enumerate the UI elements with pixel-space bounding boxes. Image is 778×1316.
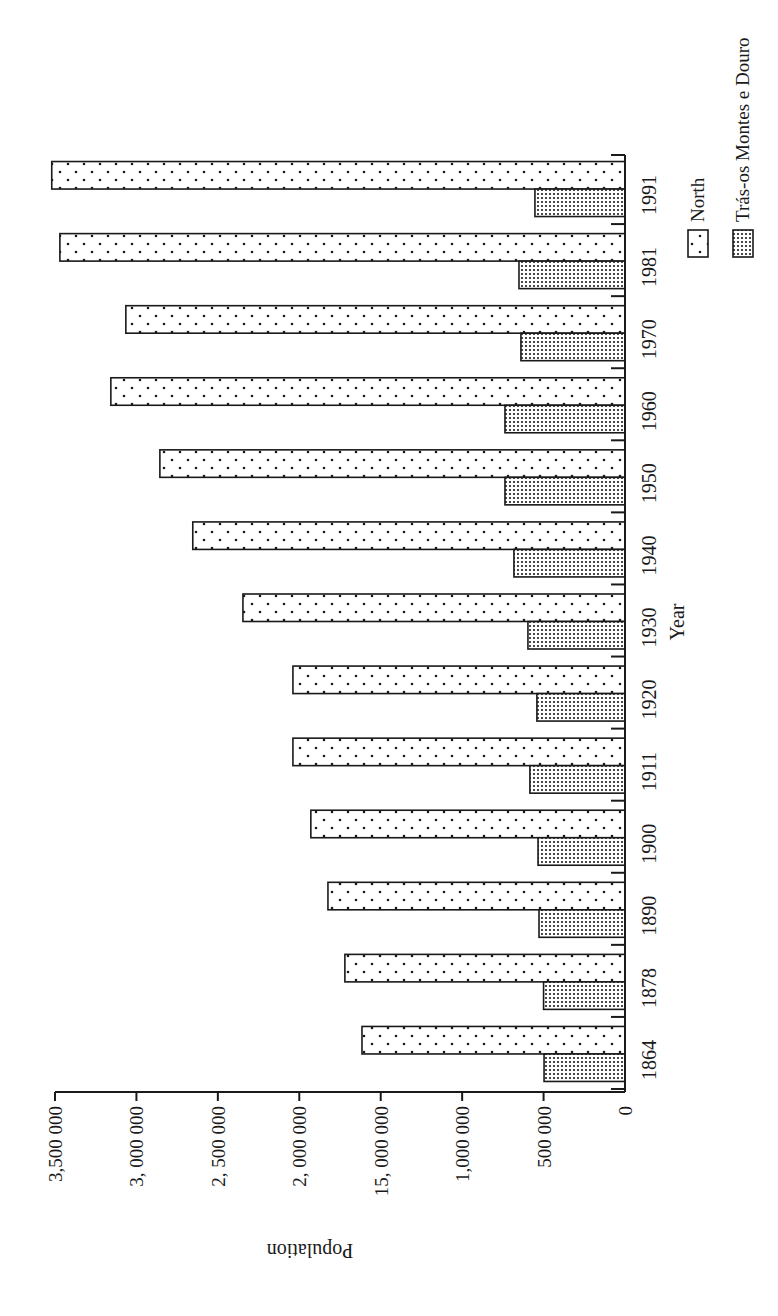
bar-north-1878 bbox=[345, 954, 625, 982]
year-label: 1991 bbox=[638, 175, 660, 215]
year-label: 1930 bbox=[638, 608, 660, 648]
legend-label-tras: Trás-os Montes e Douro bbox=[732, 37, 753, 222]
legend-label-north: North bbox=[687, 177, 708, 222]
bar-tras-1981 bbox=[519, 261, 625, 289]
population-tick-label: 2, 500 000 bbox=[208, 1106, 229, 1187]
legend: North Trás-os Montes e Douro bbox=[687, 37, 753, 257]
year-axis-title: Year bbox=[666, 603, 688, 640]
bar-north-1991 bbox=[52, 162, 625, 190]
population-tick-labels: 0500 0001,000 00015, 000 0002, 000 0002,… bbox=[45, 1106, 636, 1196]
bar-tras-1878 bbox=[544, 982, 625, 1010]
population-tick-label: 2, 000 000 bbox=[289, 1106, 310, 1187]
year-label: 1890 bbox=[638, 896, 660, 936]
bar-tras-1991 bbox=[535, 189, 625, 217]
bar-north-1970 bbox=[126, 306, 625, 334]
population-tick-label: 3,500 000 bbox=[45, 1106, 66, 1182]
bar-tras-1920 bbox=[537, 694, 625, 722]
year-label: 1940 bbox=[638, 535, 660, 575]
year-label: 1864 bbox=[638, 1040, 660, 1080]
category-labels: 1864187818901900191119201930194019501960… bbox=[638, 175, 660, 1080]
year-label: 1950 bbox=[638, 463, 660, 503]
bar-tras-1970 bbox=[521, 333, 625, 361]
bar-north-1900 bbox=[311, 810, 625, 838]
population-bar-chart: 1864187818901900191119201930194019501960… bbox=[0, 0, 778, 1316]
bar-tras-1950 bbox=[505, 477, 625, 505]
bar-north-1930 bbox=[243, 594, 625, 622]
bar-north-1940 bbox=[193, 522, 625, 550]
year-label: 1878 bbox=[638, 968, 660, 1008]
legend-swatch-north bbox=[688, 230, 708, 257]
bars-group bbox=[52, 162, 625, 1082]
population-tick-label: 1,000 000 bbox=[452, 1106, 473, 1182]
bar-tras-1930 bbox=[528, 622, 625, 650]
year-label: 1900 bbox=[638, 824, 660, 864]
bar-north-1950 bbox=[160, 450, 625, 478]
bar-north-1911 bbox=[293, 738, 625, 766]
population-axis-title: Population bbox=[267, 1239, 354, 1262]
year-label: 1981 bbox=[638, 247, 660, 287]
year-label: 1960 bbox=[638, 391, 660, 431]
population-tick-label: 3, 000 000 bbox=[126, 1106, 147, 1187]
bar-tras-1900 bbox=[538, 838, 625, 866]
legend-swatch-tras bbox=[733, 230, 753, 257]
bar-north-1890 bbox=[328, 882, 625, 910]
year-label: 1970 bbox=[638, 319, 660, 359]
bar-tras-1940 bbox=[514, 549, 625, 577]
bar-tras-1911 bbox=[530, 766, 625, 794]
population-ticks bbox=[55, 1092, 544, 1101]
bar-north-1864 bbox=[362, 1026, 625, 1054]
year-label: 1911 bbox=[638, 752, 660, 791]
bar-north-1960 bbox=[111, 378, 625, 406]
bar-north-1981 bbox=[60, 234, 625, 262]
population-tick-label: 0 bbox=[615, 1106, 636, 1116]
bar-tras-1864 bbox=[544, 1054, 625, 1082]
year-label: 1920 bbox=[638, 680, 660, 720]
population-tick-label: 15, 000 000 bbox=[371, 1106, 392, 1196]
bar-tras-1960 bbox=[505, 405, 625, 433]
bar-north-1920 bbox=[293, 666, 625, 694]
population-tick-label: 500 000 bbox=[534, 1106, 555, 1168]
bar-tras-1890 bbox=[539, 910, 625, 938]
